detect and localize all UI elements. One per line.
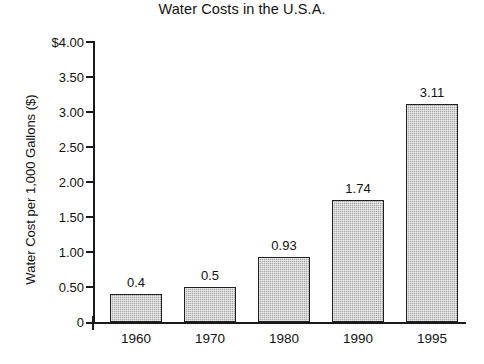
x-axis-category-label: 1995 xyxy=(400,331,464,346)
x-axis-line xyxy=(86,322,466,324)
x-axis-category-label: 1960 xyxy=(104,331,168,346)
plot-area: 00.501.001.502.002.503.003.50$4.00 0.40.… xyxy=(93,42,466,322)
x-axis-category-label: 1980 xyxy=(252,331,316,346)
x-axis-category-label: 1990 xyxy=(326,331,390,346)
y-axis-tick-label: 2.50 xyxy=(59,141,84,154)
y-axis-tick-mark xyxy=(86,251,94,253)
y-axis-tick-label: 0.50 xyxy=(59,281,84,294)
y-axis-tick-label: 1.00 xyxy=(59,246,84,259)
y-axis-tick-mark xyxy=(86,286,94,288)
x-axis-origin-tick xyxy=(92,316,94,330)
bar xyxy=(258,257,310,322)
y-axis-tick-mark xyxy=(86,41,94,43)
bar xyxy=(110,294,162,322)
y-axis-tick-mark xyxy=(86,181,94,183)
y-axis-tick-label: 0 xyxy=(77,316,84,329)
y-axis-title: Water Cost per 1,000 Gallons ($) xyxy=(23,60,38,320)
y-axis-tick-mark xyxy=(86,111,94,113)
y-axis-tick-label: 2.00 xyxy=(59,176,84,189)
chart-title: Water Costs in the U.S.A. xyxy=(0,1,484,17)
bar-value-label: 0.4 xyxy=(110,275,162,290)
bar-value-label: 0.5 xyxy=(184,268,236,283)
bar-value-label: 0.93 xyxy=(258,238,310,253)
bar xyxy=(406,104,458,322)
y-axis-tick-mark xyxy=(86,76,94,78)
bar xyxy=(184,287,236,322)
bar xyxy=(332,200,384,322)
y-axis-tick-mark xyxy=(86,216,94,218)
x-axis-category-label: 1970 xyxy=(178,331,242,346)
y-axis-tick-label: $4.00 xyxy=(51,36,84,49)
y-axis-tick-label: 3.50 xyxy=(59,71,84,84)
bar-value-label: 3.11 xyxy=(406,85,458,100)
y-axis-tick-label: 1.50 xyxy=(59,211,84,224)
y-axis-tick-label: 3.00 xyxy=(59,106,84,119)
bar-chart: Water Costs in the U.S.A. Water Cost per… xyxy=(0,0,484,364)
bar-value-label: 1.74 xyxy=(332,181,384,196)
y-axis-tick-mark xyxy=(86,146,94,148)
